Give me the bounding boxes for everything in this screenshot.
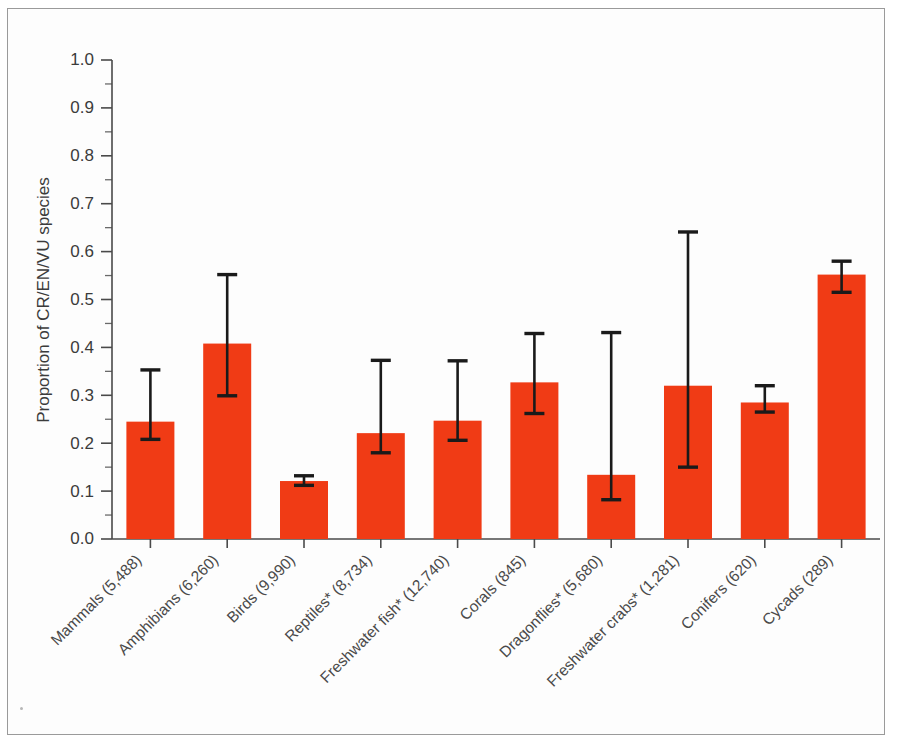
x-category-label-8: Freshwater crabs* (1,281) xyxy=(543,551,682,690)
y-axis-ticks xyxy=(101,60,112,539)
x-category-label-6: Corals (845) xyxy=(456,551,528,623)
bar-10 xyxy=(818,275,866,539)
y-tick-label: 0.6 xyxy=(70,242,94,261)
y-tick-label: 0.0 xyxy=(70,529,94,548)
x-axis-category-labels: Mammals (5,488)Amphibians (6,260)Birds (… xyxy=(47,551,835,690)
bar-chart-svg: 0.00.10.20.30.40.50.60.70.80.91.0 Mammal… xyxy=(0,0,897,754)
x-category-label-9: Conifers (620) xyxy=(677,551,758,632)
bar-9 xyxy=(741,402,789,539)
x-category-label-10: Cycads (289) xyxy=(759,551,836,628)
y-tick-label: 0.3 xyxy=(70,386,94,405)
y-tick-label: 0.2 xyxy=(70,434,94,453)
y-tick-label: 0.5 xyxy=(70,290,94,309)
x-category-label-3: Birds (9,990) xyxy=(223,551,298,626)
bar-series xyxy=(126,275,865,539)
x-axis-ticks xyxy=(150,539,841,548)
y-tick-label: 0.9 xyxy=(70,98,94,117)
y-tick-label: 0.8 xyxy=(70,146,94,165)
bar-3 xyxy=(280,481,328,539)
y-tick-label: 0.1 xyxy=(70,482,94,501)
y-tick-label: 1.0 xyxy=(70,50,94,69)
y-axis-title: Proportion of CR/EN/VU species xyxy=(34,177,53,423)
y-axis-tick-labels: 0.00.10.20.30.40.50.60.70.80.91.0 xyxy=(70,50,94,548)
y-tick-label: 0.4 xyxy=(70,338,94,357)
y-tick-label: 0.7 xyxy=(70,194,94,213)
figure-container: 0.00.10.20.30.40.50.60.70.80.91.0 Mammal… xyxy=(0,0,897,754)
chart-plot-area: 0.00.10.20.30.40.50.60.70.80.91.0 Mammal… xyxy=(0,0,897,754)
x-category-label-5: Freshwater fish* (12,740) xyxy=(317,551,452,686)
